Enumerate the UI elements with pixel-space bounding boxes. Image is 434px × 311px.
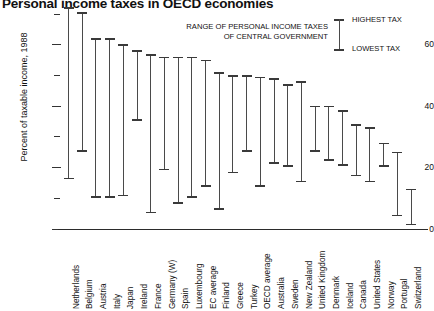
x-axis-category-label: Spain	[181, 288, 190, 309]
legend-annotation-line-1: RANGE OF PERSONAL INCOME TAXES	[170, 22, 328, 31]
x-axis-category-label: Norway	[387, 281, 396, 309]
x-axis-category-label: Greece	[236, 282, 245, 309]
range-bar-stem	[109, 38, 110, 198]
range-bar-low-cap	[242, 150, 252, 152]
range-bar-low-cap	[146, 212, 156, 214]
range-bar-low-cap	[105, 196, 115, 198]
range-bar-stem	[205, 60, 206, 187]
range-bar-high-cap	[406, 189, 416, 191]
range-bar-high-cap	[324, 106, 334, 108]
legend-stem	[339, 19, 340, 51]
range-bar-stem	[342, 110, 343, 165]
legend-low-cap	[334, 49, 344, 51]
y-tick-major	[52, 106, 61, 107]
x-axis-category-label: United States	[373, 260, 382, 309]
range-bar-stem	[95, 38, 96, 198]
range-bar-high-cap	[146, 54, 156, 56]
range-bar-low-cap	[379, 165, 389, 167]
legend-label-lowest: LOWEST TAX	[352, 44, 400, 53]
range-bar-low-cap	[283, 165, 293, 167]
range-bar-stem	[68, 7, 69, 179]
range-bar-high-cap	[296, 81, 306, 83]
range-bar-low-cap	[132, 119, 142, 121]
y-tick-major	[52, 167, 61, 168]
range-bar-stem	[315, 106, 316, 152]
range-bar-low-cap	[201, 185, 211, 187]
range-bar-low-cap	[91, 196, 101, 198]
range-bar-stem	[301, 81, 302, 182]
x-axis-category-label: Finland	[222, 282, 231, 309]
range-bar-high-cap	[132, 50, 142, 52]
range-bar-high-cap	[173, 57, 183, 59]
x-axis-category-label: Canada	[359, 280, 368, 309]
range-bar-low-cap	[118, 195, 128, 197]
range-bar-stem	[137, 50, 138, 121]
range-bar-high-cap	[64, 7, 74, 9]
legend-label-highest: HIGHEST TAX	[352, 15, 402, 24]
range-bar-high-cap	[310, 106, 320, 108]
range-bar-low-cap	[255, 185, 265, 187]
range-bar-stem	[219, 72, 220, 210]
range-bar-high-cap	[269, 78, 279, 80]
range-bar-low-cap	[64, 178, 74, 180]
range-bar-stem	[356, 124, 357, 176]
range-bar-stem	[287, 84, 288, 167]
x-axis-category-label: Ireland	[140, 284, 149, 309]
x-axis-category-label: OECD average	[263, 253, 272, 309]
range-bar-low-cap	[406, 224, 416, 226]
range-bar-stem	[178, 57, 179, 204]
x-axis-category-label: Portugal	[400, 279, 409, 310]
range-bar-stem	[397, 152, 398, 216]
y-tick-minor	[54, 198, 60, 199]
range-bar-stem	[150, 54, 151, 213]
range-bar-low-cap	[392, 215, 402, 217]
x-axis-category-label: Japan	[126, 287, 135, 309]
range-bar-high-cap	[118, 44, 128, 46]
range-bar-high-cap	[283, 84, 293, 86]
range-bar-stem	[383, 143, 384, 168]
x-axis-category-label: Iceland	[346, 283, 355, 309]
legend-annotation-line-2: OF CENTRAL GOVERNMENT	[170, 32, 328, 41]
range-bar-high-cap	[77, 12, 87, 14]
range-bar-low-cap	[159, 169, 169, 171]
range-bar-low-cap	[214, 208, 224, 210]
x-axis-category-label: Italy	[113, 294, 122, 309]
x-axis-category-label: United Kingdom	[318, 251, 327, 309]
range-bar-high-cap	[214, 72, 224, 74]
x-axis-category-label: New Zealand	[305, 261, 314, 309]
range-bar-low-cap	[310, 150, 320, 152]
x-axis-category-label: Turkey	[250, 284, 259, 309]
range-bar-low-cap	[365, 181, 375, 183]
y-tick-minor	[54, 136, 60, 137]
chart-root: Personal income taxes in OECD economies …	[0, 0, 434, 311]
range-bar-stem	[232, 75, 233, 173]
range-bar-low-cap	[77, 150, 87, 152]
range-bar-high-cap	[187, 57, 197, 59]
x-axis-category-label: Australia	[277, 277, 286, 309]
x-axis-category-label: Belgium	[85, 279, 94, 309]
range-bar-stem	[369, 127, 370, 182]
range-bar-high-cap	[351, 124, 361, 126]
range-bar-high-cap	[159, 57, 169, 59]
range-bar-high-cap	[242, 75, 252, 77]
range-bar-stem	[82, 12, 83, 152]
range-bar-low-cap	[296, 181, 306, 183]
range-bar-stem	[274, 78, 275, 164]
range-bar-low-cap	[269, 162, 279, 164]
x-axis-category-label: Germany (W)	[168, 260, 177, 309]
range-bar-high-cap	[228, 75, 238, 77]
range-bar-stem	[123, 44, 124, 196]
range-bar-stem	[328, 106, 329, 161]
x-axis-category-label: Luxembourg	[195, 263, 204, 309]
chart-title: Personal income taxes in OECD economies	[2, 0, 273, 11]
x-axis-category-label: Sweden	[291, 279, 300, 309]
x-axis-category-label: EC average	[209, 266, 218, 309]
range-bar-stem	[191, 57, 192, 198]
range-bar-low-cap	[338, 164, 348, 166]
x-axis-category-label: France	[154, 284, 163, 309]
range-bar-low-cap	[173, 202, 183, 204]
x-axis-category-label: Austria	[99, 284, 108, 309]
range-bar-high-cap	[379, 143, 389, 145]
range-bar-high-cap	[201, 60, 211, 62]
range-bar-high-cap	[105, 38, 115, 40]
